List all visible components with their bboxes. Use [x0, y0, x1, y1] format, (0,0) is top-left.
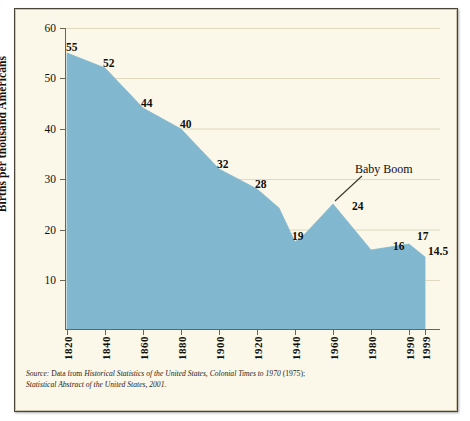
- annotation-leader-line: [330, 172, 370, 204]
- x-tick-mark-1840: [105, 330, 106, 335]
- x-tick-label-1880: 1880: [176, 336, 188, 360]
- data-label-1940: 19: [292, 230, 304, 242]
- x-tick-label-1960: 1960: [328, 336, 340, 360]
- data-label-1900: 32: [217, 158, 229, 170]
- data-label-1840: 52: [103, 57, 115, 69]
- y-tick-label-30: 30: [32, 173, 56, 185]
- x-tick-mark-1860: [143, 330, 144, 335]
- data-label-1920: 28: [255, 178, 267, 190]
- x-tick-mark-1920: [257, 330, 258, 335]
- x-tick-mark-1980: [371, 330, 372, 335]
- x-tick-label-1840: 1840: [100, 336, 112, 360]
- y-tick-label-20: 20: [32, 224, 56, 236]
- x-tick-label-1999: 1999: [420, 336, 432, 360]
- source-line1-c: (1975);: [283, 369, 305, 378]
- data-label-1860: 44: [141, 97, 153, 109]
- x-tick-mark-1900: [219, 330, 220, 335]
- y-tick-label-10: 10: [32, 274, 56, 286]
- y-axis-title: Births per thousand Americans: [0, 0, 8, 284]
- area-series-births: [67, 53, 425, 330]
- x-tick-label-1990: 1990: [404, 336, 416, 360]
- data-label-1990: 17: [417, 230, 429, 242]
- x-tick-mark-1990: [409, 330, 410, 335]
- x-tick-mark-1880: [181, 330, 182, 335]
- y-tick-label-40: 40: [32, 123, 56, 135]
- data-label-1999: 14.5: [428, 245, 448, 257]
- x-tick-label-1820: 1820: [62, 336, 74, 360]
- source-line1-b: Historical Statistics of the United Stat…: [84, 369, 281, 378]
- source-note: Source: Data from Historical Statistics …: [26, 368, 356, 391]
- x-tick-label-1860: 1860: [138, 336, 150, 360]
- x-tick-mark-1820: [67, 330, 68, 335]
- data-label-1820: 55: [66, 41, 78, 53]
- y-tick-label-50: 50: [32, 72, 56, 84]
- y-tick-label-60: 60: [32, 22, 56, 34]
- data-label-1980: 16: [393, 240, 405, 252]
- area-chart-svg: [65, 28, 440, 330]
- chart-figure: Births per thousand Americans 60 50 40 3…: [0, 0, 470, 421]
- x-tick-label-1940: 1940: [290, 336, 302, 360]
- x-tick-mark-1940: [295, 330, 296, 335]
- source-line2-a: Statistical Abstract of the United State…: [26, 380, 166, 389]
- x-tick-label-1900: 1900: [214, 336, 226, 360]
- source-prefix: Source:: [26, 369, 49, 378]
- x-tick-label-1920: 1920: [252, 336, 264, 360]
- x-tick-mark-1999: [425, 330, 426, 335]
- x-tick-label-1980: 1980: [366, 336, 378, 360]
- plot-area: [65, 28, 440, 330]
- x-tick-mark-1960: [333, 330, 334, 335]
- source-line1-a: Data from: [51, 369, 82, 378]
- data-label-1880: 40: [180, 118, 192, 130]
